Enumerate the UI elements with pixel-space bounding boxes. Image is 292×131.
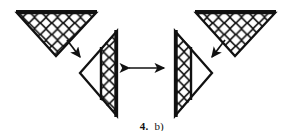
arrow-top-left-to-middle-left bbox=[67, 40, 80, 57]
top-right-triangle bbox=[191, 8, 283, 64]
arrow-top-right-to-middle-right bbox=[212, 40, 225, 57]
top-left-triangle bbox=[12, 8, 104, 64]
caption-label: b) bbox=[154, 120, 164, 131]
middle-left-triangle bbox=[80, 26, 122, 121]
figure-caption: 4. b) bbox=[0, 108, 292, 131]
figure-container: 4. b) bbox=[0, 0, 292, 131]
middle-right-triangle bbox=[170, 26, 212, 121]
top-right-triangle-hatch bbox=[191, 8, 283, 64]
top-left-triangle-hatch bbox=[12, 8, 104, 64]
